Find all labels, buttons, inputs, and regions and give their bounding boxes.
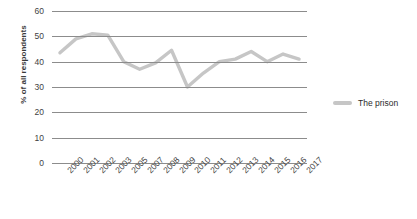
legend-label-the-prison: The prison (358, 98, 398, 108)
x-axis-tick-label: 2000 (65, 168, 72, 175)
x-axis-tick-label: 2005 (129, 168, 136, 175)
x-axis-tick-label: 2016 (288, 168, 295, 175)
legend-swatch-the-prison (333, 101, 352, 105)
legend: The prison (333, 98, 398, 108)
x-axis-tick-label: 2002 (97, 168, 104, 175)
x-axis-tick-label: 2011 (208, 168, 215, 175)
x-axis-tick-label: 2015 (272, 168, 279, 175)
x-axis-tick-label: 2017 (304, 168, 311, 175)
x-axis-tick-label: 2003 (113, 168, 120, 175)
x-axis-tick-label: 2012 (224, 168, 231, 175)
x-axis-tick-label: 2009 (177, 168, 184, 175)
x-axis-tick-label: 2010 (192, 168, 199, 175)
x-axis-tick-label: 2001 (81, 168, 88, 175)
x-axis-tick-label: 2014 (256, 168, 263, 175)
x-axis-tick-label: 2008 (161, 168, 168, 175)
x-axis-tick-labels: 2000200120022003200520072008200920102011… (0, 0, 417, 219)
line-chart: % of all respondents 0102030405060 20002… (0, 0, 417, 219)
x-axis-tick-label: 2007 (145, 168, 152, 175)
x-axis-tick-label: 2013 (240, 168, 247, 175)
